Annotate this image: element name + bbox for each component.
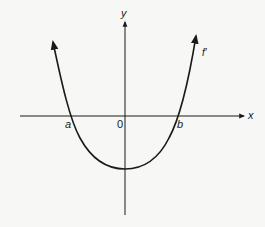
root-b-label: b <box>177 119 183 130</box>
curve-label: f′ <box>202 48 207 58</box>
y-axis-label: y <box>121 8 127 19</box>
x-axis-label: x <box>248 110 254 121</box>
graph-canvas: y x 0 a b f′ <box>0 0 265 227</box>
graph-svg <box>0 0 265 227</box>
root-a-label: a <box>65 119 71 130</box>
origin-label: 0 <box>117 119 123 130</box>
